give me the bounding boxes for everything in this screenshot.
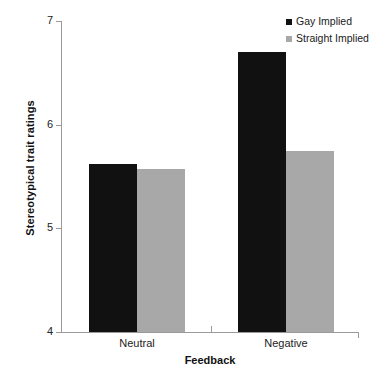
bar-neutral-straight-implied <box>137 169 185 332</box>
y-axis-tick-label: 6 <box>23 119 53 130</box>
y-axis-tick-label: 4 <box>23 326 53 337</box>
legend-label-gay-implied: Gay Implied <box>296 16 352 27</box>
bar-neutral-gay-implied <box>89 164 137 332</box>
bar-negative-gay-implied <box>238 52 286 332</box>
bar-negative-straight-implied <box>286 151 334 332</box>
y-axis-title: Stereotypical trait ratings <box>24 68 36 268</box>
legend-item-gay-implied: Gay Implied <box>286 14 369 29</box>
legend-label-straight-implied: Straight Implied <box>296 33 369 44</box>
legend-swatch-icon-gay-implied <box>286 19 292 25</box>
bar-chart: Stereotypical trait ratings 4567 Neutral… <box>0 0 385 374</box>
x-axis-end-tick <box>358 332 359 338</box>
x-axis-category-label-negative: Negative <box>226 337 346 349</box>
x-axis-category-label-neutral: Neutral <box>77 337 197 349</box>
x-axis-title: Feedback <box>61 354 359 366</box>
y-axis-tick-label: 5 <box>23 222 53 233</box>
y-axis-tick-label: 7 <box>23 15 53 26</box>
legend-item-straight-implied: Straight Implied <box>286 31 369 46</box>
legend-swatch-icon-straight-implied <box>286 36 292 42</box>
plot-area <box>61 21 359 332</box>
chart-legend: Gay Implied Straight Implied <box>286 14 369 48</box>
x-axis-line <box>61 332 359 333</box>
